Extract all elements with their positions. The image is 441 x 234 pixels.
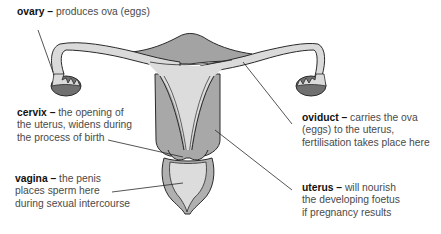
oviduct-term: oviduct: [302, 112, 339, 123]
ovary-leader-line: [38, 30, 53, 72]
oviduct-label: oviduct – carries the ova (eggs) to the …: [302, 112, 430, 149]
vagina-term: vagina: [15, 173, 48, 184]
oviduct-leader-line: [243, 62, 292, 124]
uterus-leader-line: [215, 130, 292, 190]
vagina-label: vagina – the penis places sperm here dur…: [15, 173, 130, 210]
uterus-term: uterus: [302, 182, 333, 193]
uterus-label: uterus – will nourish the developing foe…: [302, 182, 400, 219]
cervix-label: cervix – the opening of the uterus, wide…: [17, 107, 132, 144]
vaginal-canal: [169, 162, 206, 212]
ovary-label: ovary – produces ova (eggs): [17, 6, 150, 18]
cervix-term: cervix: [17, 107, 47, 118]
ovary-term: ovary: [17, 6, 44, 17]
